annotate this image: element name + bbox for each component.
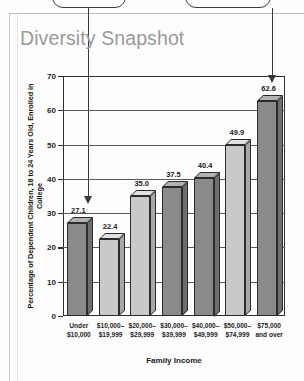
bar: 22.4 [99, 239, 119, 316]
y-axis-line [63, 76, 64, 316]
bar-front-face [194, 178, 214, 317]
bar: 62.6 [257, 101, 277, 316]
plot-frame-right [284, 76, 285, 316]
bar-side-face [245, 139, 251, 316]
page-rule-left [9, 14, 10, 381]
y-axis-tick [58, 282, 63, 283]
plot-frame-top [63, 76, 285, 77]
bar-value-label: 35.0 [134, 179, 149, 188]
y-axis-tick [58, 110, 63, 111]
bar-front-face [67, 223, 87, 316]
y-axis-tick-label: 40 [47, 174, 56, 183]
bar-front-face [225, 145, 245, 316]
gridline [63, 110, 285, 111]
bar-side-face [214, 172, 220, 316]
y-axis-tick [58, 76, 63, 77]
document-page: Diversity Snapshot Percentage of Depende… [0, 0, 304, 381]
x-axis-title: Family Income [63, 356, 285, 365]
y-axis-tick [58, 145, 63, 146]
chart-plot-area: 010203040506070 27.122.435.037.540.449.9… [63, 76, 285, 316]
bar-front-face [130, 196, 150, 316]
y-axis-tick [58, 247, 63, 248]
y-axis-tick-label: 30 [47, 209, 56, 218]
gridline [63, 145, 285, 146]
y-axis-tick-label: 60 [47, 106, 56, 115]
bar-front-face [99, 239, 119, 316]
callout-bubble-left [52, 0, 126, 8]
y-axis-title: Percentage of Dependent Children, 18 to … [22, 76, 48, 316]
y-axis-tick-label: 70 [47, 72, 56, 81]
x-axis-category-line: and over [250, 331, 288, 340]
y-axis-tick [58, 179, 63, 180]
page-rule-top [9, 13, 304, 14]
bar: 40.4 [194, 178, 214, 317]
y-axis-tick-label: 50 [47, 140, 56, 149]
y-axis-tick-label: 20 [47, 243, 56, 252]
bar-side-face [150, 190, 156, 316]
bar-front-face [257, 101, 277, 316]
x-axis-category-labels: Under$10,000$10,000–$19,999$20,000–$29,9… [63, 322, 291, 348]
bar-side-face [277, 96, 283, 316]
y-axis-tick [58, 213, 63, 214]
bar: 49.9 [225, 145, 245, 316]
callout-bubble-right [185, 0, 271, 8]
bar: 37.5 [162, 187, 182, 316]
bar-side-face [182, 182, 188, 316]
bar-value-label: 27.1 [71, 206, 86, 215]
bar-side-face [119, 233, 125, 316]
bar-side-face [87, 217, 93, 316]
y-axis-tick-label: 0 [52, 312, 56, 321]
bar: 27.1 [67, 223, 87, 316]
bar-value-label: 62.6 [261, 84, 276, 93]
bar-value-label: 49.9 [230, 128, 245, 137]
bar-value-label: 40.4 [198, 161, 213, 170]
chart-title: Diversity Snapshot [20, 27, 184, 50]
bar-value-label: 22.4 [103, 222, 118, 231]
bar: 35.0 [130, 196, 150, 316]
bar-value-label: 37.5 [166, 170, 181, 179]
x-axis-category-line: $75,000 [250, 322, 288, 331]
y-axis-tick [58, 316, 63, 317]
callout-leader-line-right [272, 8, 273, 77]
x-axis-category-label: $75,000and over [250, 322, 288, 339]
page-rule-left-secondary [17, 14, 18, 381]
bar-front-face [162, 187, 182, 316]
y-axis-tick-label: 10 [47, 277, 56, 286]
